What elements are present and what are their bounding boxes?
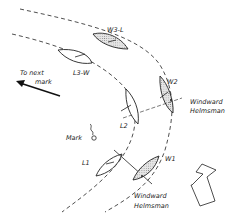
boat-label: L1 [82,159,90,167]
windward-helmsman-label-lower: Windward [134,192,167,200]
boat-label: L2 [120,122,128,130]
windward-helmsman-label-upper: Helmsman [190,107,225,115]
boat-label: L3-W [73,69,90,77]
boat-label: W1 [165,155,176,163]
mark-label: Mark [66,134,82,142]
boat-label: W3-L [107,26,124,34]
to-next-mark-label: mark [35,78,52,86]
wind-direction-arrow [191,164,216,206]
windward-helmsman-label-upper: Windward [190,98,223,106]
boat-label: W2 [167,78,178,86]
mark-buoy: Mark [66,124,96,142]
boat-w1: W1 [133,155,176,180]
to-next-mark-label: To next [20,69,44,77]
boat-l3w: L3-W [58,50,92,77]
boat-l2: L2 [120,89,138,130]
rounding-diagram: W3-L L3-W W2 Windward Helmsman L2 Mark L… [0,0,237,223]
windward-helmsman-label-lower: Helmsman [134,202,169,210]
